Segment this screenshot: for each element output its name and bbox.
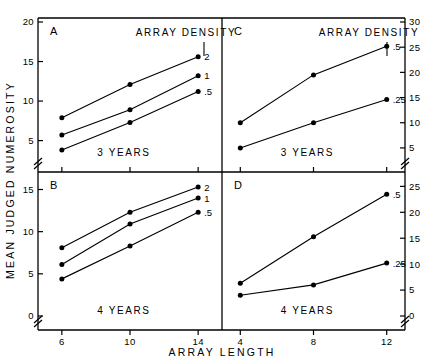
y-axis-tick-label: 15 xyxy=(23,56,34,67)
data-point xyxy=(238,120,243,125)
array-density-legend-title: ARRAY DENSITY xyxy=(319,27,419,38)
y-axis-tick-label: 0 xyxy=(28,310,34,321)
array-density-legend-title: ARRAY DENSITY xyxy=(136,27,236,38)
data-point xyxy=(196,195,201,200)
y-axis-tick-label: 5 xyxy=(28,268,34,279)
series-end-label: .5 xyxy=(393,189,401,200)
series-end-label: 1 xyxy=(204,70,209,81)
y-axis-tick-label: 5 xyxy=(28,135,34,146)
y-axis-title: MEAN JUDGED NUMEROSITY xyxy=(4,81,16,279)
y-axis-tick-label: 25 xyxy=(409,42,420,53)
data-point xyxy=(311,72,316,77)
series-end-label: .5 xyxy=(204,207,212,218)
data-point xyxy=(128,222,133,227)
y-axis-tick-label: 10 xyxy=(23,226,34,237)
series-end-label: .25 xyxy=(393,258,406,269)
panel-group-label: 3 YEARS xyxy=(281,147,334,158)
y-axis-tick-label: 10 xyxy=(409,259,420,270)
panel-group-label: 4 YEARS xyxy=(281,305,334,316)
data-point xyxy=(59,245,64,250)
panel-letter-a: A xyxy=(50,25,58,37)
series-end-label: 2 xyxy=(204,182,209,193)
x-axis-tick-label: 6 xyxy=(59,336,65,347)
series-end-label: .5 xyxy=(204,86,212,97)
y-axis-tick-label: 30 xyxy=(409,16,420,27)
x-axis-tick-label: 8 xyxy=(311,336,317,347)
data-point xyxy=(238,145,243,150)
data-point xyxy=(59,262,64,267)
data-point xyxy=(196,210,201,215)
data-point xyxy=(384,192,389,197)
data-point xyxy=(128,82,133,87)
y-axis-tick-label: 10 xyxy=(409,117,420,128)
y-axis-tick-label: 10 xyxy=(23,95,34,106)
y-axis-tick-label: 0 xyxy=(409,310,415,321)
series-end-label: .5 xyxy=(393,41,401,52)
data-point xyxy=(238,281,243,286)
series-end-label: .25 xyxy=(393,94,406,105)
data-point xyxy=(311,120,316,125)
data-point xyxy=(196,73,201,78)
data-point xyxy=(59,148,64,153)
numerosity-line-chart: 5101520A3 YEARSARRAY DENSITY21.551015202… xyxy=(0,0,440,360)
panel-letter-b: B xyxy=(50,179,57,191)
data-point xyxy=(59,276,64,281)
panel-group-label: 3 YEARS xyxy=(97,147,150,158)
data-point xyxy=(128,107,133,112)
data-point xyxy=(196,89,201,94)
y-axis-tick-label: 20 xyxy=(409,67,420,78)
x-axis-tick-label: 12 xyxy=(381,336,392,347)
series-end-label: 1 xyxy=(204,193,209,204)
y-axis-tick-label: 25 xyxy=(409,181,420,192)
data-point xyxy=(128,244,133,249)
y-axis-tick-label: 5 xyxy=(409,284,415,295)
data-point xyxy=(384,261,389,266)
y-axis-tick-label: 15 xyxy=(409,233,420,244)
figure-container: 5101520A3 YEARSARRAY DENSITY21.551015202… xyxy=(0,0,440,360)
data-point xyxy=(128,120,133,125)
y-axis-tick-label: 15 xyxy=(409,92,420,103)
y-axis-tick-label: 5 xyxy=(409,142,415,153)
panel-letter-d: D xyxy=(234,179,242,191)
x-axis-title: ARRAY LENGTH xyxy=(168,346,275,358)
series-end-label: 2 xyxy=(204,51,209,62)
data-point xyxy=(59,115,64,120)
chart-background xyxy=(0,0,440,360)
data-point xyxy=(238,293,243,298)
data-point xyxy=(311,234,316,239)
data-point xyxy=(128,210,133,215)
x-axis-tick-label: 10 xyxy=(124,336,135,347)
y-axis-tick-label: 15 xyxy=(23,184,34,195)
y-axis-tick-label: 20 xyxy=(409,207,420,218)
data-point xyxy=(384,97,389,102)
data-point xyxy=(59,133,64,138)
data-point xyxy=(196,184,201,189)
data-point xyxy=(311,282,316,287)
data-point xyxy=(196,54,201,59)
y-axis-tick-label: 20 xyxy=(23,16,34,27)
panel-letter-c: C xyxy=(234,25,242,37)
panel-group-label: 4 YEARS xyxy=(97,305,150,316)
